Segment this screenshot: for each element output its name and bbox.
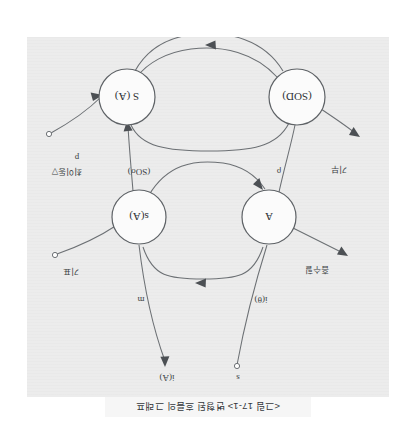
edge-gipyo-to-sA xyxy=(52,225,117,258)
edge-path-SOD-gibu xyxy=(321,109,355,133)
node-S-A[interactable]: S (A) xyxy=(99,69,155,125)
node-label-S-A: S (A) xyxy=(115,90,139,103)
figure-caption: <그림 17-1> 변형된 흐름의 그래프 xyxy=(105,397,311,417)
edge-label-right-lower-choidong: 최이동▽ xyxy=(51,167,82,177)
edge-path-s-A xyxy=(237,245,267,365)
edge-path-sA-SA xyxy=(128,126,133,191)
node-SOD[interactable]: (SOD) xyxy=(269,69,325,125)
edge-SOD-to-SA-deep xyxy=(135,37,283,71)
node-label-A: A xyxy=(265,211,273,223)
open-terminal-dot-s xyxy=(234,363,239,368)
arrow-head-iA xyxy=(160,356,169,367)
edge-label-mid-left-itheta: i(θ) xyxy=(255,295,268,305)
edge-label-top-left-s: s xyxy=(236,373,240,383)
edge-label-mid-right-m: m xyxy=(137,295,144,305)
edge-label-left-lower-gibu: 기부 xyxy=(331,165,347,175)
edge-label-p: p xyxy=(74,153,79,163)
node-label-SOD: (SOD) xyxy=(282,90,312,103)
edge-label-rho: ρ xyxy=(276,167,281,177)
edge-A-to-sA-upper xyxy=(143,247,263,287)
edge-SOD-to-SA-upper xyxy=(131,123,289,151)
open-terminal-dot-gipyo xyxy=(52,252,57,257)
edge-path-SOD-SA-upper xyxy=(131,123,289,151)
edge-path-SOD-SA-deep xyxy=(135,37,283,71)
edge-path-choidong-SA xyxy=(51,97,101,133)
edge-s-to-A xyxy=(234,245,267,369)
edge-sA-to-SA xyxy=(124,121,133,191)
edge-path-A-heupsu xyxy=(291,227,343,253)
edge-SOD-to-gibu xyxy=(321,109,360,137)
edge-label-top-right-iA: i(A) xyxy=(160,373,175,383)
flow-graph-drawing: A s(A) (SOD) S (A) s i(A) i(θ) m 흡수힐 기표 xyxy=(27,37,389,397)
edge-path-A-sA-upper xyxy=(143,247,263,279)
edge-label-right-upper-gipyo: 기표 xyxy=(63,267,79,277)
edge-sA-to-A-lower xyxy=(149,162,265,195)
open-terminal-dot-choidong xyxy=(46,131,51,136)
arrow-head-gibu xyxy=(349,127,360,137)
node-A[interactable]: A xyxy=(242,190,296,244)
edge-choidong-to-SA xyxy=(46,92,103,136)
edge-label-SOsigma: (SOσ) xyxy=(128,167,150,177)
edge-path-SOD-SA-lower xyxy=(137,48,277,77)
edge-path-A-SOD xyxy=(279,125,295,192)
edge-path-sA-A-lower xyxy=(149,162,265,195)
edge-sA-to-iA xyxy=(139,245,169,367)
scanned-page: <그림 17-1> 변형된 흐름의 그래프 xyxy=(0,0,417,433)
edge-A-to-SOD xyxy=(279,125,295,192)
arrow-head-A-sA-upper xyxy=(195,278,206,287)
node-label-sA: s(A) xyxy=(129,210,149,223)
edge-label-left-upper-heupsu: 흡수힐 xyxy=(305,265,329,275)
rotated-figure-wrapper: <그림 17-1> 변형된 흐름의 그래프 xyxy=(0,0,417,433)
node-sA[interactable]: s(A) xyxy=(112,190,166,244)
edge-path-gipyo-sA xyxy=(57,225,117,254)
edge-A-to-heupsu xyxy=(291,227,348,256)
